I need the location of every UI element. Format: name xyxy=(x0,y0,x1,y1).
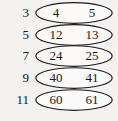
pair-values: 6061 xyxy=(35,89,113,111)
pair-left-value: 24 xyxy=(43,45,69,67)
row-label: 11 xyxy=(0,89,29,111)
pair-left-value: 4 xyxy=(43,2,69,24)
pair-left-value: 40 xyxy=(43,67,69,89)
row-label: 5 xyxy=(0,24,29,46)
pair-right-value: 5 xyxy=(79,2,105,24)
pair-left-value: 12 xyxy=(43,24,69,46)
row-label: 9 xyxy=(0,67,29,89)
pair-values: 45 xyxy=(35,2,113,24)
pair-values: 4041 xyxy=(35,67,113,89)
pair-row: 72425 xyxy=(0,45,118,67)
pair-right-value: 25 xyxy=(79,45,105,67)
pair-values: 1213 xyxy=(35,24,113,46)
pair-right-value: 61 xyxy=(79,89,105,111)
row-label: 7 xyxy=(0,45,29,67)
pair-row: 345 xyxy=(0,2,118,24)
pair-row: 116061 xyxy=(0,89,118,111)
pair-right-value: 41 xyxy=(79,67,105,89)
pair-left-value: 60 xyxy=(43,89,69,111)
pair-row: 94041 xyxy=(0,67,118,89)
pair-right-value: 13 xyxy=(79,24,105,46)
pair-values: 2425 xyxy=(35,45,113,67)
pair-row: 51213 xyxy=(0,24,118,46)
number-pair-diagram: 345512137242594041116061 xyxy=(0,0,118,121)
row-label: 3 xyxy=(0,2,29,24)
rows-container: 345512137242594041116061 xyxy=(0,0,118,121)
